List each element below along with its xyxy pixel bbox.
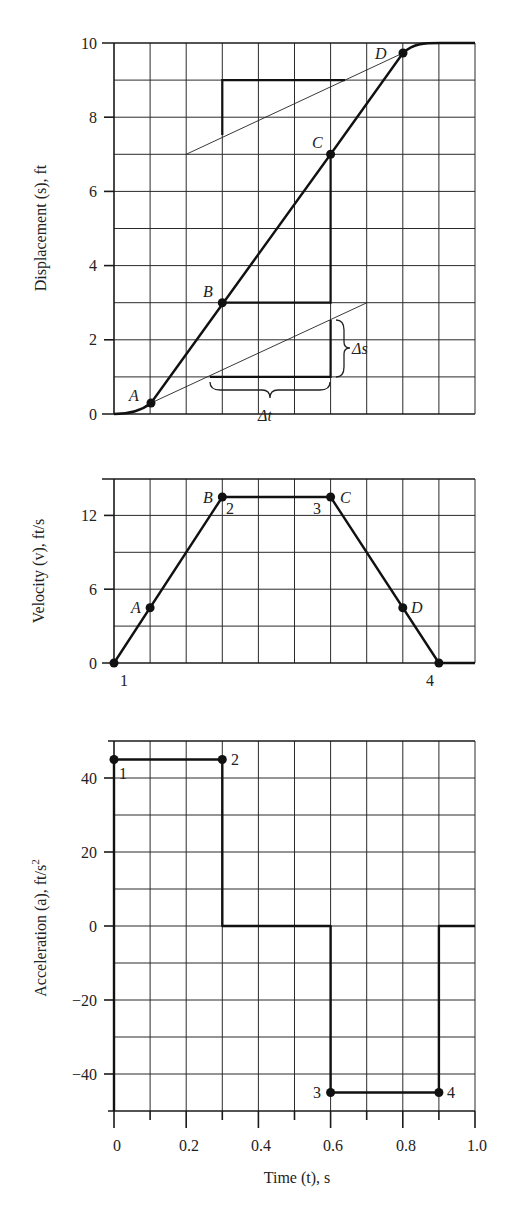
point-c: [326, 150, 335, 159]
label-node-4: 4: [447, 1084, 455, 1101]
label-node-1: 1: [119, 765, 127, 782]
tick-label: 0: [89, 918, 97, 935]
label-b: B: [203, 283, 213, 300]
tick-label: −20: [72, 992, 97, 1009]
label-b: B: [203, 489, 213, 506]
delta-t-label: Δt: [257, 407, 272, 424]
label-node-2: 2: [226, 500, 234, 517]
tick-label: 4: [89, 257, 97, 274]
point-c: [326, 493, 335, 502]
tick-label: 40: [81, 770, 97, 787]
node-3: [326, 1088, 335, 1097]
tick-label: 0: [89, 655, 97, 672]
node-4: [434, 1088, 443, 1097]
tick-label: 6: [89, 581, 97, 598]
velocity-y-axis-title: Velocity (v), ft/s: [30, 519, 48, 623]
velocity-chart: 0 6 12 Velocity (v), ft/s A B C D 1 2 3 …: [30, 479, 475, 689]
label-c: C: [312, 134, 323, 151]
label-node-1: 1: [120, 672, 128, 689]
acceleration-y-axis-title: Acceleration (a), ft/s2: [29, 859, 50, 996]
tick-label: 8: [89, 109, 97, 126]
displacement-grid: [114, 43, 475, 414]
label-node-4: 4: [426, 672, 434, 689]
acceleration-y-ticks: 40 20 0 −20 −40: [72, 770, 97, 1083]
tick-label: 10: [81, 35, 97, 52]
point-d: [399, 49, 408, 58]
tick-label: 12: [81, 507, 97, 524]
node-1: [110, 755, 119, 764]
tick-label: 0.6: [323, 1137, 343, 1154]
label-a: A: [130, 599, 141, 616]
label-d: D: [374, 45, 387, 62]
delta-t-brace: [210, 382, 330, 398]
label-node-3: 3: [313, 1084, 321, 1101]
point-a: [146, 603, 155, 612]
tick-label: 0.8: [396, 1137, 416, 1154]
node-1: [110, 659, 119, 668]
svg-text:Acceleration (a), ft/s2: Acceleration (a), ft/s2: [29, 859, 50, 996]
velocity-y-ticks: 0 6 12: [81, 507, 97, 672]
velocity-axes: [102, 479, 475, 663]
acc-y-title-sup: 2: [29, 859, 41, 865]
time-x-ticks: 0 0.2 0.4 0.6 0.8 1.0: [113, 1137, 487, 1154]
acc-y-title-text: Acceleration (a), ft/s: [32, 865, 50, 997]
acceleration-chart: 40 20 0 −20 −40 0 0.2 0.4 0.6 0.8 1.0 Ti…: [29, 741, 487, 1187]
node-2: [218, 755, 227, 764]
acceleration-axes: [104, 741, 475, 1128]
tick-label: 0.2: [179, 1137, 199, 1154]
tick-label: −40: [72, 1066, 97, 1083]
time-x-axis-title: Time (t), s: [264, 1169, 331, 1187]
delta-s-label: Δs: [351, 340, 368, 357]
tick-label: 0: [113, 1137, 121, 1154]
label-c: C: [340, 489, 351, 506]
label-d: D: [410, 599, 423, 616]
tick-label: 20: [81, 844, 97, 861]
kinematics-figure: 0 2 4 6 8 10 Displacement (s), ft Δs Δt …: [0, 0, 513, 1216]
tick-label: 1.0: [467, 1137, 487, 1154]
point-a: [147, 399, 156, 408]
label-node-3: 3: [313, 500, 321, 517]
label-a: A: [128, 387, 139, 404]
tick-label: 0: [89, 406, 97, 423]
delta-triangle: [210, 320, 331, 377]
node-4: [434, 659, 443, 668]
displacement-y-axis-title: Displacement (s), ft: [32, 164, 50, 291]
point-b: [218, 298, 227, 307]
tick-label: 2: [89, 331, 97, 348]
delta-s-brace: [336, 320, 350, 377]
point-d: [398, 603, 407, 612]
label-node-2: 2: [231, 751, 239, 768]
tick-label: 0.4: [251, 1137, 271, 1154]
displacement-y-ticks: 0 2 4 6 8 10: [81, 35, 97, 423]
lower-secant-line: [151, 303, 367, 403]
displacement-chart: 0 2 4 6 8 10 Displacement (s), ft Δs Δt …: [32, 35, 475, 425]
tick-label: 6: [89, 183, 97, 200]
